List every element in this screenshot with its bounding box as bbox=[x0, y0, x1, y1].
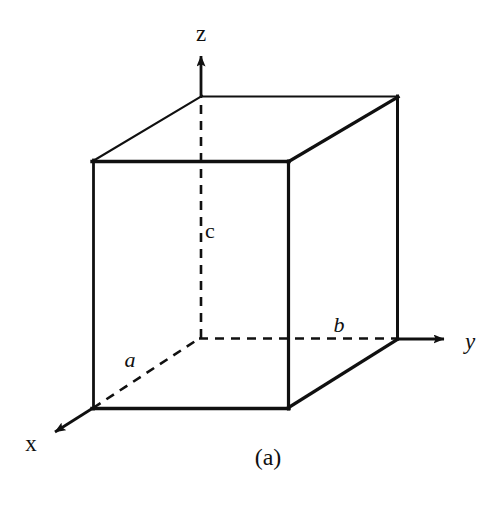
hidden-edge-a bbox=[93, 338, 200, 408]
figure-container: z y x a b c (a) bbox=[0, 0, 499, 505]
edge-top-right-diagonal bbox=[288, 97, 398, 162]
cube-edges-group bbox=[92, 96, 398, 409]
lattice-parameter-a-label: a bbox=[125, 349, 136, 371]
x-axis-arrow bbox=[55, 408, 93, 432]
z-axis-label: z bbox=[196, 22, 206, 45]
axes-group bbox=[55, 56, 444, 432]
unit-cell-diagram bbox=[0, 0, 499, 505]
lattice-parameter-b-label: b bbox=[334, 314, 345, 336]
edge-back-top-left-diagonal bbox=[93, 96, 202, 161]
lattice-parameter-c-label: c bbox=[205, 220, 215, 242]
hidden-edges-group bbox=[93, 97, 398, 408]
x-axis-label: x bbox=[25, 432, 37, 455]
y-axis-label: y bbox=[465, 330, 475, 353]
figure-caption: (a) bbox=[255, 445, 282, 469]
edge-bottom-right-diagonal bbox=[288, 339, 398, 408]
